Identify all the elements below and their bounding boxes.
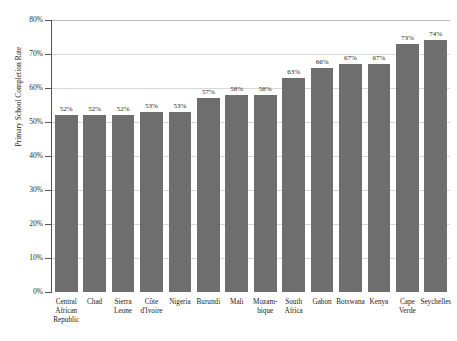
y-axis-tick-label: 30% (0, 186, 43, 194)
y-axis-tick-label: 50% (0, 118, 43, 126)
y-axis-tick (45, 88, 51, 89)
y-axis-tick-label: 10% (0, 254, 43, 262)
gridline (52, 20, 450, 21)
bar (197, 98, 220, 292)
x-axis-label-line: Africa (275, 307, 311, 316)
bar-value-label: 53% (163, 103, 198, 110)
y-axis-tick (45, 224, 51, 225)
bar (169, 112, 192, 292)
y-axis-tick (45, 20, 51, 21)
y-axis-tick (45, 258, 51, 259)
y-axis-tick (45, 156, 51, 157)
bar (112, 115, 135, 292)
y-axis-tick-label: 60% (0, 84, 43, 92)
bar (55, 115, 78, 292)
y-axis-tick-label: 70% (0, 50, 43, 58)
bar (254, 95, 277, 292)
y-axis-tick (45, 292, 51, 293)
bar-value-label: 63% (276, 69, 311, 76)
x-axis-label-line: Republic (48, 316, 84, 325)
bar (396, 44, 419, 292)
x-axis-label-line: Seychelles (418, 298, 454, 307)
y-axis-tick (45, 190, 51, 191)
x-axis-label-line: African (48, 307, 84, 316)
bar (424, 40, 447, 292)
bar (140, 112, 163, 292)
x-axis-label: Seychelles (418, 298, 454, 307)
bar (339, 64, 362, 292)
y-axis-tick-label: 80% (0, 16, 43, 24)
bar (368, 64, 391, 292)
bar (225, 95, 248, 292)
chart-page: Primary School Completion Rate 80%70%60%… (0, 0, 457, 341)
y-axis-tick-label: 40% (0, 152, 43, 160)
y-axis-tick (45, 54, 51, 55)
bar-value-label: 58% (248, 86, 283, 93)
y-axis-tick (45, 122, 51, 123)
x-axis-label-line: Verde (389, 307, 425, 316)
bar-value-label: 67% (362, 55, 397, 62)
y-axis-tick-label: 20% (0, 220, 43, 228)
bar (311, 68, 334, 292)
plot-area: 52%52%52%53%53%57%58%58%63%66%67%67%73%7… (52, 20, 450, 292)
bar-value-label: 74% (418, 31, 453, 38)
bar (282, 78, 305, 292)
bar (83, 115, 106, 292)
x-axis-label-line: d'Ivoire (133, 307, 169, 316)
y-axis-tick-label: 0% (0, 288, 43, 296)
